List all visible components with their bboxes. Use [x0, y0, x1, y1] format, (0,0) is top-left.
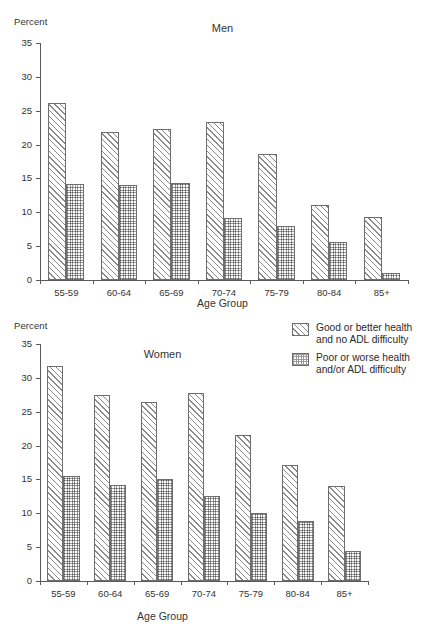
- y-axis-tick-label: 35: [6, 338, 32, 349]
- y-axis-tick: [36, 446, 40, 447]
- bar: [328, 486, 344, 581]
- y-axis-line: [40, 43, 41, 280]
- women-y-axis-label: Percent: [14, 320, 47, 331]
- legend-label: Good or better health and no ADL difficu…: [316, 322, 412, 345]
- y-axis-tick-label: 30: [6, 372, 32, 383]
- bar: [277, 226, 295, 280]
- bar: [258, 154, 276, 280]
- men-chart-panel: Percent Men 0510152025303555-5960-6465-6…: [0, 0, 445, 320]
- y-axis-tick-label: 5: [6, 240, 32, 251]
- bar: [329, 242, 347, 280]
- chart-page: Percent Men 0510152025303555-5960-6465-6…: [0, 0, 445, 636]
- bar: [282, 465, 298, 581]
- men-plot-area: 0510152025303555-5960-6465-6970-7475-798…: [40, 43, 408, 280]
- bar: [94, 395, 110, 581]
- bar: [206, 122, 224, 280]
- bar: [66, 184, 84, 280]
- bar: [251, 513, 267, 581]
- y-axis-tick-label: 5: [6, 541, 32, 552]
- x-axis-tick: [321, 581, 322, 585]
- bar: [204, 496, 220, 581]
- legend-label: Poor or worse health and/or ADL difficul…: [316, 352, 410, 375]
- x-axis-tick-label: 60-64: [87, 588, 134, 599]
- x-axis-tick: [40, 581, 41, 585]
- men-x-axis-title: Age Group: [0, 297, 445, 309]
- x-axis-tick: [134, 581, 135, 585]
- men-chart-title: Men: [0, 22, 445, 34]
- y-axis-tick-label: 0: [6, 575, 32, 586]
- x-axis-line: [40, 280, 408, 281]
- y-axis-tick: [36, 513, 40, 514]
- y-axis-tick-label: 10: [6, 206, 32, 217]
- y-axis-tick-label: 35: [6, 37, 32, 48]
- x-axis-tick: [274, 581, 275, 585]
- legend-swatch-cross-hatch-icon: [292, 353, 309, 366]
- y-axis-tick: [36, 212, 40, 213]
- x-axis-tick: [181, 581, 182, 585]
- x-axis-tick: [250, 280, 251, 284]
- y-axis-tick-label: 25: [6, 105, 32, 116]
- bar: [311, 205, 329, 280]
- x-axis-tick: [227, 581, 228, 585]
- x-axis-tick-label: 75-79: [227, 588, 274, 599]
- x-axis-tick-label: 70-74: [181, 588, 228, 599]
- bar: [188, 393, 204, 581]
- women-x-axis-title: Age Group: [0, 610, 385, 622]
- x-axis-tick-label: 80-84: [274, 588, 321, 599]
- x-axis-tick: [408, 280, 409, 284]
- y-axis-tick: [36, 479, 40, 480]
- y-axis-tick-label: 30: [6, 71, 32, 82]
- bar: [171, 183, 189, 280]
- y-axis-tick-label: 20: [6, 440, 32, 451]
- x-axis-tick: [40, 280, 41, 284]
- bar: [157, 479, 173, 581]
- y-axis-tick: [36, 43, 40, 44]
- x-axis-tick: [368, 581, 369, 585]
- x-axis-tick-label: 55-59: [40, 588, 87, 599]
- bar: [224, 218, 242, 280]
- y-axis-line: [40, 344, 41, 581]
- y-axis-tick: [36, 246, 40, 247]
- y-axis-tick: [36, 547, 40, 548]
- y-axis-tick-label: 0: [6, 274, 32, 285]
- x-axis-tick-label: 85+: [321, 588, 368, 599]
- bar: [345, 551, 361, 581]
- legend-item: Poor or worse health and/or ADL difficul…: [292, 352, 444, 375]
- x-axis-tick-label: 65-69: [134, 588, 181, 599]
- bar: [141, 402, 157, 581]
- x-axis-tick: [198, 280, 199, 284]
- chart-legend: Good or better health and no ADL difficu…: [292, 322, 444, 382]
- legend-swatch-diagonal-hatch-icon: [292, 323, 309, 336]
- bar: [119, 185, 137, 280]
- y-axis-tick-label: 25: [6, 406, 32, 417]
- bar: [235, 435, 251, 581]
- x-axis-tick: [355, 280, 356, 284]
- y-axis-tick: [36, 111, 40, 112]
- y-axis-tick: [36, 77, 40, 78]
- y-axis-tick-label: 15: [6, 473, 32, 484]
- x-axis-line: [40, 581, 368, 582]
- y-axis-tick-label: 20: [6, 139, 32, 150]
- y-axis-tick: [36, 178, 40, 179]
- x-axis-tick: [87, 581, 88, 585]
- bar: [298, 521, 314, 581]
- bar: [153, 129, 171, 280]
- x-axis-tick: [303, 280, 304, 284]
- bar: [382, 273, 400, 280]
- bar: [47, 366, 63, 581]
- y-axis-tick: [36, 378, 40, 379]
- bar: [63, 476, 79, 581]
- bar: [101, 132, 119, 280]
- bar: [364, 217, 382, 280]
- bar: [48, 103, 66, 280]
- y-axis-tick: [36, 344, 40, 345]
- x-axis-tick: [145, 280, 146, 284]
- bar: [110, 485, 126, 581]
- y-axis-tick: [36, 412, 40, 413]
- legend-item: Good or better health and no ADL difficu…: [292, 322, 444, 345]
- y-axis-tick: [36, 145, 40, 146]
- x-axis-tick: [93, 280, 94, 284]
- y-axis-tick-label: 15: [6, 172, 32, 183]
- y-axis-tick-label: 10: [6, 507, 32, 518]
